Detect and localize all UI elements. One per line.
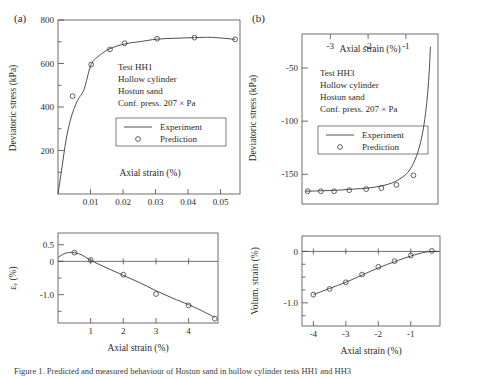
series-prediction-marker xyxy=(70,94,75,99)
x-tick-label: 3 xyxy=(154,326,159,336)
x-tick-label: -1 xyxy=(402,41,410,51)
series-prediction-marker xyxy=(154,292,159,297)
plot-frame xyxy=(58,233,218,323)
y-tick-label: 600 xyxy=(41,59,55,69)
y-axis-title: Deviatoric stress (kPa) xyxy=(248,75,259,162)
y-tick-label: -150 xyxy=(282,169,299,179)
y-tick-label: -50 xyxy=(286,63,298,73)
legend-label-experiment: Experiment xyxy=(362,130,404,140)
legend-label-prediction: Prediction xyxy=(160,134,197,144)
series-prediction-marker xyxy=(311,292,316,297)
y-tick-label: 0.5 xyxy=(43,240,55,250)
annotation-line: Hollow cylinder xyxy=(320,80,379,90)
x-tick-label: -4 xyxy=(310,329,318,339)
y-tick-label: 400 xyxy=(41,102,55,112)
x-tick-label: 4 xyxy=(186,326,191,336)
series-prediction-marker xyxy=(364,187,369,192)
chart-b-volumetric-strain: 0-1.0-4-3-2-1Axial strain (%)Volum. stra… xyxy=(244,228,489,373)
y-tick-label: 0 xyxy=(50,257,55,267)
series-prediction-marker xyxy=(411,173,416,178)
x-tick-label: -2 xyxy=(375,329,383,339)
annotation-line: Test HH3 xyxy=(320,68,355,78)
x-tick-label: 0.03 xyxy=(148,197,164,207)
y-axis-title: Volum. strain (%) xyxy=(250,247,261,315)
annotation-line: Hostun sand xyxy=(320,92,365,102)
x-tick-label: 0.05 xyxy=(213,197,229,207)
y-axis-title: εᵥ (%) xyxy=(8,266,19,289)
annotation-line: Hostun sand xyxy=(118,86,163,96)
y-tick-label: 800 xyxy=(41,15,55,25)
legend-label-experiment: Experiment xyxy=(160,122,202,132)
x-tick-label: 0.04 xyxy=(180,197,196,207)
y-tick-label: -100 xyxy=(282,116,299,126)
figure-caption: Figure 1. Predicted and measured behavio… xyxy=(14,366,484,376)
annotation-line: Hollow cylinder xyxy=(118,74,177,84)
series-experiment-line xyxy=(58,252,215,317)
annotation-line: Conf. press. 207 × Pa xyxy=(320,104,398,114)
legend-label-prediction: Prediction xyxy=(362,142,399,152)
x-tick-label: -1 xyxy=(407,329,415,339)
series-prediction-marker xyxy=(429,249,434,254)
series-prediction-marker xyxy=(347,188,352,193)
figure-root: (a) (b) 2004006008000.010.020.030.040.05… xyxy=(0,0,489,378)
x-tick-label: 0.02 xyxy=(115,197,131,207)
x-axis-title: Axial strain (%) xyxy=(339,44,400,55)
legend-marker-sample xyxy=(338,145,343,150)
x-tick-label: -3 xyxy=(342,329,350,339)
plot-frame xyxy=(302,34,438,204)
legend-marker-sample xyxy=(136,137,141,142)
x-tick-label: 1 xyxy=(88,326,93,336)
series-prediction-marker xyxy=(394,182,399,187)
y-tick-label: -1.0 xyxy=(40,290,55,300)
y-axis-title: Deviatoric stress (kPa) xyxy=(8,65,19,152)
x-axis-title: Axial strain (%) xyxy=(119,168,180,179)
chart-a-volumetric-strain: 0.50-1.01234Axial strain (%)εᵥ (%) xyxy=(0,225,250,370)
annotation-line: Test HH1 xyxy=(118,62,153,72)
y-tick-label: 200 xyxy=(41,146,55,156)
annotation-line: Conf. press. 207 × Pa xyxy=(118,98,196,108)
series-prediction-marker xyxy=(332,189,337,194)
x-axis-title: Axial strain (%) xyxy=(107,343,168,354)
x-tick-label: -3 xyxy=(327,41,335,51)
plot-frame xyxy=(302,236,440,326)
chart-b-deviatoric-stress: -50-100-150-3-2-1Axial strain (%)Deviato… xyxy=(244,8,489,223)
y-tick-label: -1.0 xyxy=(284,298,299,308)
chart-a-deviatoric-stress: 2004006008000.010.020.030.040.05Axial st… xyxy=(0,8,250,213)
y-tick-label: 0 xyxy=(294,247,299,257)
x-axis-title: Axial strain (%) xyxy=(340,346,401,357)
x-tick-label: 2 xyxy=(121,326,126,336)
x-tick-label: 0.01 xyxy=(83,197,99,207)
